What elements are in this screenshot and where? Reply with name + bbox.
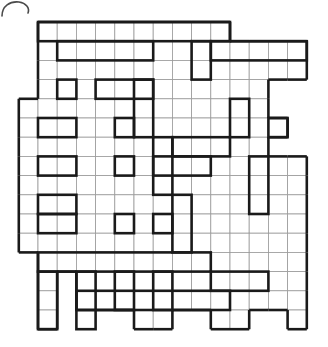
grid-cell[interactable] [249, 41, 268, 60]
grid-cell[interactable] [153, 41, 172, 60]
grid-cell[interactable] [249, 272, 268, 291]
grid-cell[interactable] [38, 252, 57, 271]
grid-cell[interactable] [38, 137, 57, 156]
grid-cell[interactable] [153, 272, 172, 291]
grid-cell[interactable] [115, 60, 134, 79]
grid-cell[interactable] [249, 233, 268, 252]
grid-cell[interactable] [38, 233, 57, 252]
grid-cell[interactable] [268, 60, 287, 79]
grid-cell[interactable] [153, 176, 172, 195]
grid-cell[interactable] [268, 176, 287, 195]
grid-cell[interactable] [153, 214, 172, 233]
grid-cell[interactable] [249, 137, 268, 156]
grid-cell[interactable] [192, 156, 211, 175]
grid-cell[interactable] [211, 195, 230, 214]
grid-cell[interactable] [211, 41, 230, 60]
grid-cell[interactable] [57, 233, 76, 252]
grid-cell[interactable] [57, 214, 76, 233]
grid-cell[interactable] [288, 176, 307, 195]
grid-cell[interactable] [115, 252, 134, 271]
grid-cell[interactable] [211, 214, 230, 233]
grid-cell[interactable] [288, 291, 307, 310]
grid-cell[interactable] [153, 80, 172, 99]
grid-cell[interactable] [211, 233, 230, 252]
grid-cell[interactable] [192, 118, 211, 137]
grid-cell[interactable] [96, 195, 115, 214]
grid-cell[interactable] [192, 41, 211, 60]
grid-cell[interactable] [268, 252, 287, 271]
grid-cell[interactable] [288, 233, 307, 252]
grid-cell[interactable] [134, 310, 153, 329]
grid-cell[interactable] [172, 118, 191, 137]
grid-cell[interactable] [134, 80, 153, 99]
grid-cell[interactable] [57, 99, 76, 118]
grid-cell[interactable] [57, 195, 76, 214]
grid-cell[interactable] [115, 272, 134, 291]
grid-cell[interactable] [96, 99, 115, 118]
grid-cell[interactable] [230, 156, 249, 175]
grid-cell[interactable] [230, 252, 249, 271]
grid-cell[interactable] [115, 22, 134, 41]
grid-cell[interactable] [268, 195, 287, 214]
grid-cell[interactable] [134, 60, 153, 79]
grid-cell[interactable] [76, 41, 95, 60]
grid-cell[interactable] [96, 156, 115, 175]
grid-cell[interactable] [96, 272, 115, 291]
grid-cell[interactable] [230, 176, 249, 195]
grid-cell[interactable] [38, 41, 57, 60]
grid-cell[interactable] [172, 99, 191, 118]
grid-cell[interactable] [211, 272, 230, 291]
grid-cell[interactable] [96, 137, 115, 156]
grid-cell[interactable] [211, 118, 230, 137]
grid-cell[interactable] [230, 272, 249, 291]
grid-cell[interactable] [115, 118, 134, 137]
grid-cell[interactable] [172, 60, 191, 79]
grid-cell[interactable] [230, 310, 249, 329]
grid-cell[interactable] [96, 22, 115, 41]
grid-cell[interactable] [288, 214, 307, 233]
grid-cell[interactable] [268, 233, 287, 252]
grid-cell[interactable] [153, 99, 172, 118]
grid-cell[interactable] [57, 60, 76, 79]
grid-cell[interactable] [172, 214, 191, 233]
grid-cell[interactable] [96, 80, 115, 99]
grid-cell[interactable] [172, 22, 191, 41]
grid-cell[interactable] [96, 60, 115, 79]
grid-cell[interactable] [249, 60, 268, 79]
grid-cell[interactable] [134, 252, 153, 271]
grid-cell[interactable] [96, 214, 115, 233]
grid-cell[interactable] [19, 99, 38, 118]
grid-cell[interactable] [172, 156, 191, 175]
grid-cell[interactable] [211, 80, 230, 99]
grid-cell[interactable] [153, 233, 172, 252]
grid-cell[interactable] [230, 41, 249, 60]
grid-cell[interactable] [76, 156, 95, 175]
grid-cell[interactable] [192, 195, 211, 214]
grid-cell[interactable] [288, 41, 307, 60]
grid-cell[interactable] [172, 41, 191, 60]
grid-cell[interactable] [57, 252, 76, 271]
grid-cell[interactable] [134, 291, 153, 310]
grid-cell[interactable] [192, 291, 211, 310]
grid-cell[interactable] [38, 176, 57, 195]
grid-cell[interactable] [192, 233, 211, 252]
grid-cell[interactable] [211, 252, 230, 271]
grid-cell[interactable] [115, 80, 134, 99]
grid-cell[interactable] [268, 214, 287, 233]
grid-cell[interactable] [153, 60, 172, 79]
grid-cell[interactable] [153, 22, 172, 41]
grid-cell[interactable] [230, 80, 249, 99]
grid-cell[interactable] [249, 118, 268, 137]
grid-cell[interactable] [38, 195, 57, 214]
grid-cell[interactable] [153, 156, 172, 175]
grid-cell[interactable] [115, 156, 134, 175]
grid-cell[interactable] [115, 176, 134, 195]
grid-cell[interactable] [249, 195, 268, 214]
grid-cell[interactable] [153, 137, 172, 156]
grid-cell[interactable] [172, 195, 191, 214]
grid-cell[interactable] [230, 137, 249, 156]
grid-cell[interactable] [134, 118, 153, 137]
grid-cell[interactable] [172, 291, 191, 310]
grid-cell[interactable] [96, 176, 115, 195]
grid-cell[interactable] [19, 233, 38, 252]
